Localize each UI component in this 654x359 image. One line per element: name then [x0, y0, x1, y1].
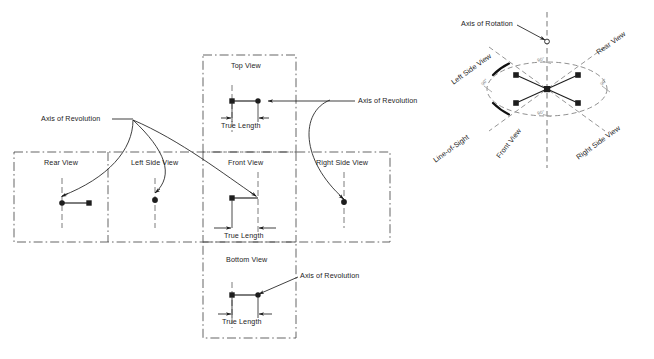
pictorial-marker-lower-left [513, 100, 519, 106]
bottom-view-square-marker [229, 292, 234, 297]
left-side-view-label: Left Side View [131, 159, 178, 166]
left-side-view-geometry [152, 197, 158, 203]
leader-aor-bottom [259, 277, 298, 294]
revolution-arc-right-upper [309, 100, 344, 199]
top-view-dot-marker [255, 98, 260, 103]
revolution-arc-to-left-side [133, 120, 165, 193]
right-side-view-dot-marker [341, 199, 347, 205]
top-view-square-marker [229, 98, 234, 103]
emphasis-arc-lower-left [493, 103, 509, 114]
drawing-canvas [0, 0, 654, 359]
true-length-label-bottom: True Length [222, 318, 262, 325]
front-view-square-marker [229, 195, 234, 200]
pictorial-marker-center [544, 86, 550, 92]
rear-view-label: Rear View [44, 159, 78, 166]
arrow-to-right [339, 195, 344, 199]
bottom-view-dot-marker [255, 292, 260, 297]
bottom-view-geometry [218, 292, 272, 318]
front-view-label: Front View [228, 159, 263, 166]
revolution-arc-arrowheads [62, 189, 344, 199]
orthographic-view-boxes [14, 55, 390, 338]
axis-of-rotation-endpoint [545, 39, 550, 44]
pictorial-marker-upper-left [513, 72, 519, 78]
leader-axis-of-rotation [517, 25, 545, 40]
axis-of-revolution-label-bottom: Axis of Revolution [300, 272, 359, 279]
rear-view-square-marker [86, 200, 91, 205]
arrow-to-rear [62, 194, 69, 197]
axis-of-revolution-label-left: Axis of Revolution [41, 115, 100, 122]
technical-drawing-figure: Top View Rear View Left Side View Front … [0, 0, 654, 359]
angle-tick-left [484, 86, 492, 92]
emphasis-arc-upper-left [493, 64, 509, 75]
axis-of-rotation-label: Axis of Rotation [461, 20, 513, 27]
pictorial-marker-upper-right [575, 72, 581, 78]
true-length-label-top: True Length [221, 122, 261, 129]
rear-view-geometry [59, 200, 92, 206]
left-side-view-dot-marker [152, 197, 158, 203]
bottom-view-label: Bottom View [226, 256, 267, 263]
right-side-view-geometry [341, 199, 347, 205]
right-side-view-label: Right Side View [316, 159, 368, 166]
true-length-label-front: True Length [224, 232, 264, 239]
rear-view-dot-marker [59, 200, 65, 206]
pictorial-marker-lower-right [575, 100, 581, 106]
top-view-geometry [221, 98, 269, 122]
top-view-label: Top View [231, 62, 261, 69]
arrow-to-front [250, 192, 257, 196]
front-view-geometry [214, 195, 276, 228]
axis-of-revolution-label-right: Axis of Revolution [358, 97, 417, 104]
arrow-to-left-side [155, 189, 160, 193]
